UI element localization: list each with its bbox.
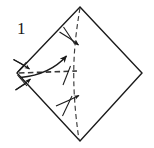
unfold-arrow-bottom-left-tail — [16, 84, 26, 90]
unfold-arrow-top-left-tail — [14, 60, 25, 66]
step-number-label: 1 — [17, 19, 26, 39]
